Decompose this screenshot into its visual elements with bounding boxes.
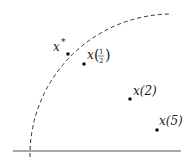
label-x-5: x(5) (159, 114, 183, 128)
point-x-half (82, 62, 86, 66)
diagram-canvas: x * x ( 1 2 ) x(2) x(5) (0, 0, 192, 168)
label-x-half-numerator: 1 (99, 48, 103, 56)
label-x-2: x(2) (133, 84, 157, 98)
diagram-svg: x * x ( 1 2 ) x(2) x(5) (0, 0, 192, 168)
label-x-star-superscript: * (61, 37, 66, 47)
label-x-star: x (53, 40, 60, 54)
point-x-2 (128, 97, 132, 101)
point-x-star (66, 52, 70, 56)
label-x-half: x (87, 48, 94, 62)
label-x-half-denominator: 2 (99, 57, 103, 65)
point-x-5 (155, 128, 159, 132)
label-x-half-close-paren: ) (105, 47, 110, 63)
